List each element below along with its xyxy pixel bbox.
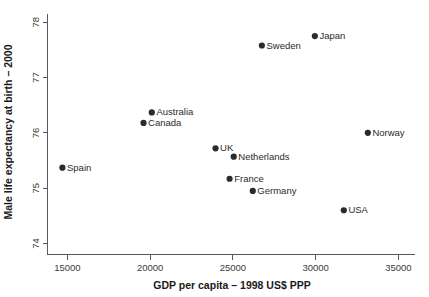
data-point: Sweden	[259, 40, 301, 51]
point-marker	[250, 188, 256, 194]
y-axis-title: Male life expectancy at birth – 2000	[2, 44, 14, 219]
x-axis-ticks: 1500020000250003000035000	[54, 255, 412, 273]
point-label: France	[234, 173, 264, 184]
point-marker	[212, 145, 218, 151]
data-point: Canada	[140, 117, 182, 128]
x-tick-label: 30000	[302, 262, 328, 273]
point-label: Canada	[148, 117, 182, 128]
x-tick-label: 35000	[385, 262, 411, 273]
data-point: Norway	[365, 127, 405, 138]
y-tick-label: 75	[30, 183, 41, 194]
data-point: Netherlands	[231, 151, 290, 162]
x-axis-title: GDP per capita – 1998 US$ PPP	[153, 279, 310, 291]
data-point: Japan	[312, 30, 346, 41]
y-tick-label: 76	[30, 128, 41, 139]
point-marker	[259, 42, 265, 48]
point-marker	[312, 33, 318, 39]
data-point: Australia	[149, 106, 194, 117]
data-point: Germany	[250, 185, 297, 196]
data-point: France	[226, 173, 263, 184]
point-label: UK	[220, 142, 234, 153]
scatter-chart: 1500020000250003000035000 7475767778 Spa…	[0, 0, 429, 297]
data-points: SpainCanadaAustraliaUKFranceNetherlandsG…	[59, 30, 405, 215]
y-tick-label: 74	[30, 238, 41, 249]
x-tick-label: 20000	[137, 262, 163, 273]
y-tick-label: 77	[30, 72, 41, 83]
point-label: Japan	[319, 30, 345, 41]
y-tick-label: 78	[30, 17, 41, 28]
data-point: Spain	[59, 162, 91, 173]
point-label: Sweden	[266, 40, 300, 51]
point-label: Australia	[156, 106, 194, 117]
x-tick-label: 25000	[220, 262, 246, 273]
point-marker	[341, 207, 347, 213]
point-marker	[365, 130, 371, 136]
y-axis-ticks: 7475767778	[30, 17, 47, 249]
point-marker	[226, 176, 232, 182]
data-point: UK	[212, 142, 234, 153]
data-point: USA	[341, 204, 369, 215]
point-marker	[149, 109, 155, 115]
point-marker	[140, 120, 146, 126]
plot-area: 1500020000250003000035000 7475767778 Spa…	[0, 0, 429, 297]
point-label: USA	[348, 204, 368, 215]
point-marker	[59, 165, 65, 171]
x-tick-label: 15000	[54, 262, 80, 273]
point-label: Norway	[372, 127, 404, 138]
axes	[48, 14, 416, 255]
point-label: Spain	[67, 162, 91, 173]
point-label: Netherlands	[238, 151, 289, 162]
point-marker	[231, 154, 237, 160]
point-label: Germany	[257, 185, 296, 196]
